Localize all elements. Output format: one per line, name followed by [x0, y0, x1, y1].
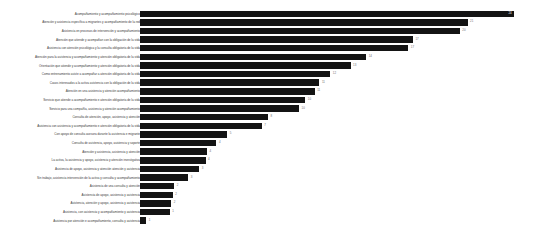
bar-value-label: 7: [264, 124, 266, 127]
bar-row: Atención que atiende y acompañan con la …: [0, 35, 541, 44]
bar-value-label: 4: [210, 150, 212, 153]
bar-rect[interactable]: [140, 71, 330, 78]
bar-track: 2: [140, 182, 530, 191]
bar-track: 24: [140, 10, 530, 19]
bar-row: Casos interesados a la activa asistencia…: [0, 78, 541, 87]
bar-rect[interactable]: [140, 209, 170, 216]
bar-value-label: 3: [191, 176, 193, 179]
bar-value-label: 2: [174, 202, 176, 205]
bar-rect[interactable]: [140, 123, 262, 130]
bar-track: 12: [140, 70, 530, 79]
bar-rect[interactable]: [140, 114, 268, 121]
bar-track: 14: [140, 53, 530, 62]
bar-rect[interactable]: [140, 183, 174, 190]
bar-category-label: Asistencia con asistencia y acompañamien…: [37, 124, 140, 128]
bar-category-label: La activa, la asistencia y apoyo, asiste…: [52, 158, 140, 162]
bar-value-label: 8: [270, 116, 272, 119]
bar-rect[interactable]: [140, 131, 227, 138]
bar-category-label: Sin trabajo, asistencia intervención de …: [37, 176, 140, 180]
bar-row: Consulta de asistencia, apoyo, asistenci…: [0, 139, 541, 148]
bar-rect[interactable]: [140, 11, 514, 18]
bar-rect[interactable]: [140, 79, 319, 86]
bar-rect[interactable]: [140, 45, 408, 52]
bar-value-label: 12: [333, 72, 336, 75]
bar-row: Asistencia con atención psicológica y la…: [0, 44, 541, 53]
bar-row: Asistencia de apoyo, asistencia y asiste…: [0, 191, 541, 200]
bar-rect[interactable]: [140, 174, 188, 181]
bar-rect[interactable]: [140, 62, 351, 69]
bar-row: La activa, la asistencia y apoyo, asiste…: [0, 156, 541, 165]
bar-category-label: Servicio que atiende a acompañamiento e …: [43, 98, 140, 102]
bar-category-label: Orientación que atiende y acompañamiento…: [39, 64, 140, 68]
bar-track: 11: [140, 87, 530, 96]
bar-value-label: 4: [219, 141, 221, 144]
bar-track: 17: [140, 44, 530, 53]
bar-category-label: Asistencia con atención psicológica y la…: [47, 46, 140, 50]
bar-category-label: Atención en una asistencia y atención ac…: [66, 89, 140, 93]
bar-track: 10: [140, 96, 530, 105]
bar-value-label: 11: [317, 90, 320, 93]
bar-track: 3: [140, 165, 530, 174]
bar-track: 4: [140, 156, 530, 165]
bar-row: Como entrenamiento asiste a acompañar a …: [0, 70, 541, 79]
bar-rect[interactable]: [140, 157, 206, 164]
bar-rect[interactable]: [140, 200, 171, 207]
plot-area: Acompañamiento y acompañamiento psicológ…: [0, 0, 541, 235]
bar-category-label: Servicio para una compañía, asistencia y…: [49, 107, 140, 111]
bar-rect[interactable]: [140, 36, 413, 43]
bar-rect[interactable]: [140, 217, 146, 224]
bar-value-label: 1: [149, 219, 151, 222]
bar-rect[interactable]: [140, 166, 199, 173]
bar-track: 3: [140, 173, 530, 182]
horizontal-bar-chart: Acompañamiento y acompañamiento psicológ…: [0, 0, 541, 235]
bar-track: 7: [140, 122, 530, 131]
bar-row: Orientación que atiende y acompañamiento…: [0, 61, 541, 70]
bar-value-label: 4: [208, 159, 210, 162]
bar-row: Sin trabajo, asistencia intervención de …: [0, 173, 541, 182]
bar-rect[interactable]: [140, 88, 315, 95]
bar-track: 21: [140, 18, 530, 27]
bar-row: Consulta de atención, apoyo, asistencia …: [0, 113, 541, 122]
bar-track: 13: [140, 61, 530, 70]
bar-row: Acompañamiento y acompañamiento psicológ…: [0, 10, 541, 19]
bar-value-label: 11: [322, 81, 325, 84]
bar-category-label: Acompañamiento y acompañamiento psicológ…: [75, 12, 140, 16]
bar-row: Asistencia, atención y apoyo, asistencia…: [0, 199, 541, 208]
bar-category-label: Consulta de atención, apoyo, asistencia …: [72, 115, 140, 119]
bar-value-label: 14: [369, 55, 372, 58]
bar-category-label: Asistencia por atención e acompañamiento…: [53, 219, 140, 223]
bar-category-label: Asistencia en procesos de intervención y…: [62, 29, 140, 33]
bar-value-label: 10: [302, 107, 305, 110]
bar-rect[interactable]: [140, 140, 216, 147]
bar-track: 11: [140, 78, 530, 87]
bar-rect[interactable]: [140, 105, 299, 112]
bar-row: Asistencia con asistencia y acompañamien…: [0, 122, 541, 131]
bar-category-label: Atención que atiende y acompañan con la …: [56, 38, 140, 42]
bar-value-label: 17: [416, 38, 419, 41]
bar-track: 2: [140, 191, 530, 200]
bar-rect[interactable]: [140, 54, 366, 61]
bar-value-label: 10: [308, 98, 311, 101]
bar-row: Asistencia, con asistencia y acompañamie…: [0, 208, 541, 217]
bar-value-label: 13: [353, 64, 356, 67]
bar-value-label: 2: [177, 184, 179, 187]
bar-category-label: Atención para la asistencia y acompañami…: [35, 55, 140, 59]
bar-track: 8: [140, 113, 530, 122]
bar-row: Atención y asistencia específica a migra…: [0, 18, 541, 27]
bar-category-label: Asistencia de apoyo, asistencia y asiste…: [82, 193, 140, 197]
bar-rect[interactable]: [140, 19, 468, 26]
bar-track: 17: [140, 35, 530, 44]
bar-category-label: Atención y asistencia específica a migra…: [42, 20, 140, 24]
bar-rect[interactable]: [140, 28, 460, 35]
bar-row: Asistencia en procesos de intervención y…: [0, 27, 541, 36]
bar-rect[interactable]: [140, 97, 305, 104]
bar-track: 2: [140, 199, 530, 208]
bar-value-label: 24: [508, 12, 511, 15]
bar-track: 4: [140, 147, 530, 156]
bar-rect[interactable]: [140, 148, 207, 155]
bar-value-label: 2: [175, 193, 177, 196]
bar-rect[interactable]: [140, 192, 173, 199]
bar-track: 1: [140, 216, 530, 225]
bar-row: Servicio que atiende a acompañamiento e …: [0, 96, 541, 105]
bar-category-label: Asistencia de apoyo, asistencia y atenci…: [55, 167, 140, 171]
